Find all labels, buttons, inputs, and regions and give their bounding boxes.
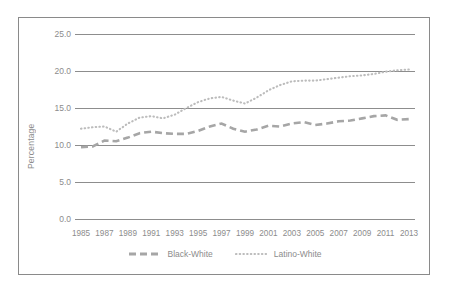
y-axis-tick-label: 0.0 bbox=[37, 215, 71, 224]
x-axis-tick-label: 2001 bbox=[259, 230, 277, 238]
dashed-line-swatch bbox=[128, 250, 162, 258]
legend-item-label: Black-White bbox=[167, 249, 212, 259]
y-axis-tick-label: 5.0 bbox=[37, 178, 71, 187]
x-axis-tick-label: 2003 bbox=[283, 230, 301, 238]
legend-item-label: Latino-White bbox=[274, 249, 322, 259]
y-axis-tick-label: 10.0 bbox=[37, 141, 71, 150]
x-axis-tick-label: 2005 bbox=[306, 230, 324, 238]
x-axis-tick-label: 2011 bbox=[377, 230, 395, 238]
y-axis-tick-label: 25.0 bbox=[37, 30, 71, 39]
x-axis-tick-label: 1995 bbox=[189, 230, 207, 238]
chart-frame: Percentage 25.020.015.010.05.00.0 198519… bbox=[18, 17, 430, 275]
x-axis-tick-label: 1993 bbox=[166, 230, 184, 238]
chart-plot-wrapper: Percentage 25.020.015.010.05.00.0 198519… bbox=[19, 18, 431, 276]
dotted-line-swatch bbox=[235, 250, 269, 258]
x-axis-tick-label: 1997 bbox=[212, 230, 230, 238]
x-axis-tick-label: 2007 bbox=[330, 230, 348, 238]
legend-item[interactable]: Latino-White bbox=[235, 249, 322, 259]
x-axis-tick-label: 1987 bbox=[95, 230, 113, 238]
series-line-black-white bbox=[81, 115, 409, 147]
x-axis-tick-label: 1991 bbox=[142, 230, 160, 238]
x-axis-tick-label: 1999 bbox=[236, 230, 254, 238]
chart-legend: Black-WhiteLatino-White bbox=[19, 249, 431, 259]
series-line-latino-white bbox=[81, 70, 409, 132]
y-axis-tick-label: 15.0 bbox=[37, 104, 71, 113]
legend-item[interactable]: Black-White bbox=[128, 249, 212, 259]
x-axis-tick-label: 1985 bbox=[72, 230, 90, 238]
x-axis-tick-label: 2009 bbox=[353, 230, 371, 238]
y-axis-tick-label: 20.0 bbox=[37, 67, 71, 76]
x-axis-tick-label: 2013 bbox=[400, 230, 418, 238]
x-axis-tick-label: 1989 bbox=[119, 230, 137, 238]
